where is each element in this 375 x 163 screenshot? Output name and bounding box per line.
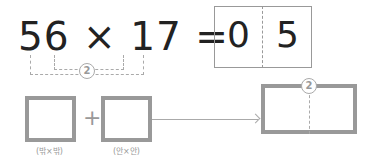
arrow-line (152, 119, 258, 120)
result-divider (309, 90, 310, 134)
right-operand: 17 (130, 14, 182, 59)
step-2-marker: 2 (79, 63, 95, 79)
answer-digit-ones: 5 (276, 13, 299, 57)
arrow-head-icon (251, 114, 261, 124)
left-operand: 56 (18, 14, 70, 59)
outer-product-label: (밖×밖) (36, 145, 63, 156)
inner-product-label: (안×안) (113, 145, 140, 156)
outer-product-box (25, 96, 76, 142)
answer-divider (262, 6, 263, 68)
plus-sign: + (83, 107, 101, 129)
answer-digit-tens: 0 (227, 13, 250, 57)
operator: × (83, 14, 117, 59)
result-step-2-marker: 2 (301, 78, 317, 94)
inner-product-box (101, 96, 152, 142)
